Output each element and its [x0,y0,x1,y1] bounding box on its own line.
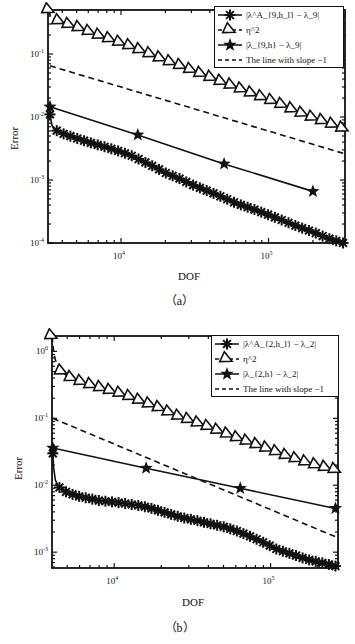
asterisk-icon [214,338,240,350]
chart-b-legend: |λ^A_{2,h_l} − λ_2|η^2|λ_{2,h} − λ_2|The… [211,335,339,397]
legend-entry: |λ_{9,h} − λ_9| [215,37,343,52]
chart-a-legend: |λ^A_{9,h_l} − λ_9|η^2|λ_{9,h} − λ_9|The… [214,6,344,68]
legend-entry: |λ^A_{9,h_l} − λ_9| [215,7,343,22]
legend-entry: The line with slope −1 [215,52,343,67]
chart-b-x-axis-label: DOF [182,596,204,608]
tick-label: 10-1 [34,412,48,423]
chart-panel-b: 10410510010-110-210-3 |λ^A_{2,h_l} − λ_2… [0,320,355,644]
triangle-right-icon [214,353,240,365]
tick-label: 105 [263,575,275,586]
series-asterisk [44,109,348,249]
legend-entry: |λ^A_{2,h_l} − λ_2| [212,336,338,351]
legend-label: The line with slope −1 [246,55,327,65]
legend-label: η^2 [246,25,259,35]
chart-a-y-axis-label: Error [8,127,20,150]
chart-a-x-axis-label: DOF [178,270,200,282]
tick-label: 105 [261,250,273,261]
chart-b-y-axis-label: Error [12,457,24,480]
legend-entry: The line with slope −1 [212,381,338,396]
legend-entry: η^2 [212,351,338,366]
star-icon [217,39,243,51]
triangle-right-icon [217,24,243,36]
tick-label: 104 [113,250,125,261]
legend-entry: η^2 [215,22,343,37]
tick-label: 10-2 [30,111,44,122]
legend-label: The line with slope −1 [243,384,324,394]
tick-label: 10-2 [34,479,48,490]
tick-label: 10-3 [30,174,44,185]
legend-label: |λ_{9,h} − λ_9| [246,40,301,50]
dashed-line-icon [214,383,240,395]
star-icon [214,368,240,380]
tick-label: 10-1 [30,48,44,59]
legend-label: |λ^A_{2,h_l} − λ_2| [243,339,316,349]
dashed-line-icon [217,54,243,66]
legend-label: |λ_{2,h} − λ_2| [243,369,298,379]
legend-label: |λ^A_{9,h_l} − λ_9| [246,10,319,20]
tick-label: 10-3 [34,546,48,557]
legend-label: η^2 [243,354,256,364]
asterisk-icon [217,9,243,21]
tick-label: 100 [36,345,48,356]
chart-a-caption: （a） [2,291,355,309]
chart-b-caption: （b） [2,618,355,636]
legend-entry: |λ_{2,h} − λ_2| [212,366,338,381]
tick-label: 10-4 [30,237,44,248]
series-asterisk [47,448,341,572]
chart-panel-a: 10410510-110-210-310-4 |λ^A_{9,h_l} − λ_… [0,0,355,320]
tick-label: 104 [106,575,118,586]
